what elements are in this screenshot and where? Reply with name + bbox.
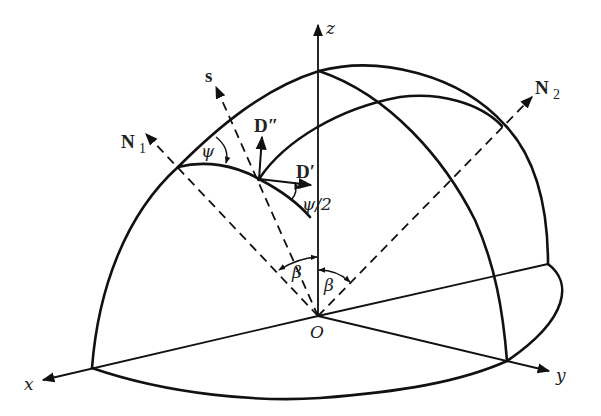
psi-half-angle-arc xyxy=(292,183,296,199)
n1-label: N xyxy=(121,131,135,152)
inner-arc-n1-to-d xyxy=(178,164,310,217)
n2-subscript: 2 xyxy=(553,87,560,102)
beta-left-label: β xyxy=(291,262,302,282)
n2-vector xyxy=(318,97,532,316)
psi-angle-arc xyxy=(216,137,227,163)
bottom-front-arc xyxy=(92,361,507,399)
dashed-normals xyxy=(146,87,532,316)
x-axis xyxy=(43,316,318,380)
inner-meridian-arc xyxy=(319,71,507,361)
n1-subscript: 1 xyxy=(139,141,146,156)
sphere-curves xyxy=(92,66,562,399)
right-rim-arc xyxy=(507,264,562,361)
psi-half-label: ψ/2 xyxy=(302,194,332,214)
back-radius-line xyxy=(318,264,548,316)
d-prime-label: D′ xyxy=(296,161,315,182)
psi-label: ψ xyxy=(201,141,215,161)
y-axis-label: y xyxy=(555,365,566,385)
beta-right-label: β xyxy=(323,275,334,295)
spherical-geometry-diagram: z x y O s N 1 N 2 D″ D′ ψ ψ/2 β β xyxy=(0,0,601,416)
s-label: s xyxy=(205,65,212,86)
d-point xyxy=(257,177,261,181)
origin-label: O xyxy=(310,322,324,342)
n2-label: N xyxy=(535,77,549,98)
y-axis xyxy=(318,316,549,371)
n1-vector xyxy=(146,134,318,316)
d-double-prime-label: D″ xyxy=(254,115,278,136)
x-axis-label: x xyxy=(24,374,34,394)
z-axis-label: z xyxy=(325,18,336,38)
d-double-prime-vector xyxy=(259,137,262,179)
labels: z x y O s N 1 N 2 D″ D′ ψ ψ/2 β β xyxy=(24,18,566,394)
